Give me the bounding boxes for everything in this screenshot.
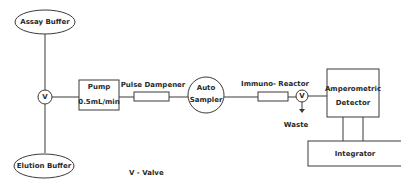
auto-sampler-circle [188,77,224,113]
valve-outlet-label: V [299,93,304,100]
valve-inlet-label: V [42,94,47,101]
pulse-dampener-label: Pulse Dampener [121,82,186,89]
pump-rate-label: 0.5mL/min [78,99,119,106]
auto-sampler-label-line2: Sampler [190,97,223,104]
detector-label-line2: Detector [336,100,370,107]
pump-label: Pump [88,84,110,91]
waste-arrow-icon [299,109,305,113]
auto-sampler-label-line1: Auto [197,85,216,92]
immuno-reactor-label: Immuno- Reactor [241,81,309,88]
waste-label: Waste [284,122,308,129]
legend-valve: V - Valve [129,170,164,177]
pulse-dampener-box [134,92,169,101]
assay-buffer-label: Assay Buffer [20,19,69,26]
elution-buffer-label: Elution Buffer [17,163,71,170]
immuno-reactor-box [258,92,288,101]
integrator-label: Integrator [335,151,375,158]
detector-box [327,69,379,117]
detector-label-line1: Amperometric [325,86,381,93]
flow-diagram: Assay Buffer Elution Buffer V Pump 0.5mL… [0,0,401,190]
